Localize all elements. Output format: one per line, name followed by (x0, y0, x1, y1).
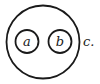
outer-set-circle-c (7, 6, 80, 79)
label-c: c. (83, 34, 94, 49)
label-a: a (23, 34, 31, 49)
set-diagram: a b c. (0, 0, 100, 84)
label-b: b (56, 34, 64, 49)
